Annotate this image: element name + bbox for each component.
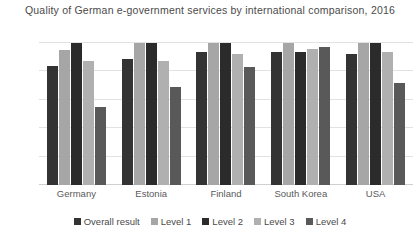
legend-item-label: Level 2 — [212, 216, 243, 227]
legend-item[interactable]: Overall result — [74, 216, 140, 227]
bar[interactable] — [71, 43, 82, 185]
x-axis-tick-label: Estonia — [114, 188, 189, 199]
bar-groups — [39, 43, 413, 185]
bar-group — [189, 43, 264, 185]
x-axis: GermanyEstoniaFinlandSouth KoreaUSA — [39, 188, 413, 199]
legend-item-label: Overall result — [84, 216, 140, 227]
bar-group — [114, 43, 189, 185]
x-axis-tick-label: Germany — [39, 188, 114, 199]
bar[interactable] — [59, 50, 70, 185]
bar[interactable] — [83, 61, 94, 185]
bar[interactable] — [220, 43, 231, 185]
bar[interactable] — [370, 43, 381, 185]
legend-item-label: Level 3 — [264, 216, 295, 227]
legend-item-label: Level 1 — [161, 216, 192, 227]
legend-item[interactable]: Level 4 — [306, 216, 347, 227]
legend-swatch-icon — [306, 218, 313, 225]
chart-legend: Overall resultLevel 1Level 2Level 3Level… — [0, 216, 420, 227]
bar[interactable] — [244, 67, 255, 185]
chart-title: Quality of German e-government services … — [0, 3, 420, 17]
legend-swatch-icon — [151, 218, 158, 225]
x-axis-tick-label: South Korea — [263, 188, 338, 199]
bar[interactable] — [170, 87, 181, 185]
bar[interactable] — [271, 52, 282, 185]
bar[interactable] — [95, 107, 106, 185]
bar[interactable] — [208, 43, 219, 185]
bar[interactable] — [358, 43, 369, 185]
legend-item[interactable]: Level 3 — [254, 216, 295, 227]
bar[interactable] — [307, 49, 318, 185]
bar[interactable] — [394, 83, 405, 185]
bar[interactable] — [122, 59, 133, 185]
x-axis-tick-label: USA — [338, 188, 413, 199]
bar-group — [39, 43, 114, 185]
bar[interactable] — [47, 66, 58, 185]
bar[interactable] — [319, 47, 330, 185]
bar[interactable] — [283, 43, 294, 185]
bar[interactable] — [196, 52, 207, 185]
bar-group — [338, 43, 413, 185]
x-axis-tick-label: Finland — [189, 188, 264, 199]
legend-item-label: Level 4 — [316, 216, 347, 227]
bar[interactable] — [295, 52, 306, 185]
legend-swatch-icon — [74, 218, 81, 225]
bar[interactable] — [232, 54, 243, 185]
legend-item[interactable]: Level 1 — [151, 216, 192, 227]
legend-item[interactable]: Level 2 — [202, 216, 243, 227]
bar[interactable] — [146, 43, 157, 185]
bar[interactable] — [382, 52, 393, 185]
bar[interactable] — [158, 61, 169, 185]
bar[interactable] — [346, 54, 357, 185]
bar-group — [263, 43, 338, 185]
legend-swatch-icon — [254, 218, 261, 225]
bar[interactable] — [134, 43, 145, 185]
legend-swatch-icon — [202, 218, 209, 225]
bar-chart: Quality of German e-government services … — [0, 0, 420, 240]
